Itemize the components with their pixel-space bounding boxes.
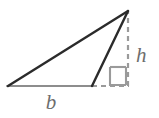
diagram-canvas: b h (0, 0, 159, 118)
height-label: h (136, 43, 147, 67)
base-label: b (46, 90, 57, 114)
triangle-diagram: b h (0, 0, 159, 118)
right-angle-marker-icon (110, 67, 126, 85)
